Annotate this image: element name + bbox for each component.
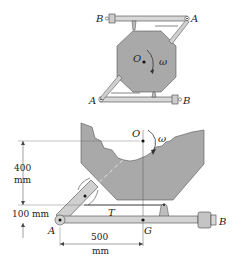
label-a-bottom: A	[88, 95, 96, 106]
label-o: O	[132, 128, 140, 139]
drum-section	[81, 123, 204, 200]
label-b-top: B	[95, 13, 103, 24]
bottom-counterweight	[172, 95, 178, 104]
dim-100: 100 mm	[12, 209, 50, 219]
bottom-strut	[100, 75, 122, 100]
top-figure: B A O ω A B	[88, 13, 198, 106]
label-a: A	[47, 225, 55, 236]
bottom-figure: 400 mm 100 mm 500 mm O ω T A G B	[12, 123, 226, 256]
top-arm	[113, 16, 187, 21]
label-b: B	[218, 216, 226, 227]
label-a-top: A	[190, 13, 198, 24]
top-support	[132, 21, 136, 30]
dim-400-unit: mm	[14, 175, 32, 185]
label-omega-top: ω	[159, 56, 167, 67]
main-arm	[60, 216, 198, 223]
omega-arrow	[148, 130, 156, 152]
dim-500-value: 500	[91, 232, 108, 242]
dim-400-value: 400	[14, 163, 31, 173]
label-b-bottom: B	[182, 95, 190, 106]
label-g: G	[144, 225, 152, 236]
bottom-support	[152, 92, 156, 97]
label-omega: ω	[158, 133, 166, 144]
top-counterweight	[109, 14, 115, 23]
label-o-top: O	[133, 53, 141, 64]
top-center-o	[142, 60, 145, 63]
counterweight	[198, 212, 211, 228]
bottom-arm	[100, 97, 174, 102]
dim-500-unit: mm	[92, 246, 110, 256]
top-strut	[169, 20, 189, 44]
diagram-canvas: B A O ω A B	[0, 0, 242, 263]
center-g	[141, 218, 144, 221]
center-o	[141, 139, 144, 142]
